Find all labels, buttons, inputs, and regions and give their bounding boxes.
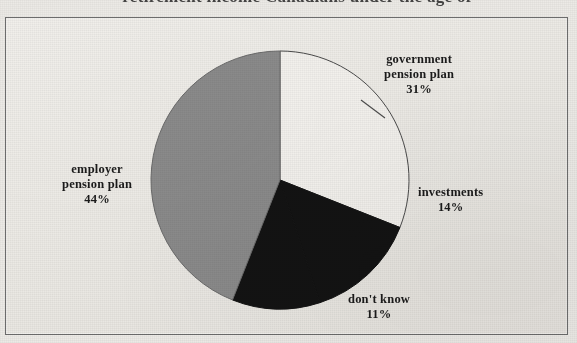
slice-label-line1: government bbox=[384, 52, 454, 67]
chart-page: retirement income Canadians under the ag… bbox=[0, 0, 577, 343]
slice-value: 14% bbox=[418, 200, 483, 215]
slice-label-line1: investments bbox=[418, 185, 483, 200]
caption-strip: retirement income Canadians under the ag… bbox=[0, 0, 577, 15]
slice-label-employer-pension-plan: employer pension plan 44% bbox=[62, 162, 132, 207]
slice-label-government-pension-plan: government pension plan 31% bbox=[384, 52, 454, 97]
slice-label-investments: investments 14% bbox=[418, 185, 483, 215]
chart-caption: retirement income Canadians under the ag… bbox=[62, 0, 532, 7]
slice-value: 11% bbox=[348, 307, 410, 322]
slice-value: 31% bbox=[384, 82, 454, 97]
slice-value: 44% bbox=[62, 192, 132, 207]
slice-label-line1: don't know bbox=[348, 292, 410, 307]
slice-label-line2: pension plan bbox=[62, 177, 132, 192]
slice-label-line2: pension plan bbox=[384, 67, 454, 82]
pie-slices bbox=[151, 51, 409, 309]
slice-label-dont-know: don't know 11% bbox=[348, 292, 410, 322]
slice-label-line1: employer bbox=[62, 162, 132, 177]
